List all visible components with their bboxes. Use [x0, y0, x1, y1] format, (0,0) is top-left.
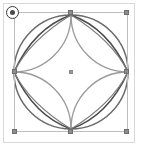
rotation-handle-dot-icon [10, 10, 15, 15]
transform-origin-marker[interactable] [69, 70, 73, 74]
editor-canvas-root [0, 0, 143, 157]
rotation-handle[interactable] [6, 6, 19, 19]
resize-handle-top-right[interactable] [124, 10, 129, 15]
resize-handle-bottom-right[interactable] [124, 129, 129, 134]
resize-handle-bottom-center[interactable] [68, 129, 73, 134]
resize-handle-middle-left[interactable] [12, 69, 17, 74]
resize-handle-bottom-left[interactable] [12, 129, 17, 134]
resize-handle-top-center[interactable] [68, 10, 73, 15]
resize-handle-middle-right[interactable] [124, 69, 129, 74]
